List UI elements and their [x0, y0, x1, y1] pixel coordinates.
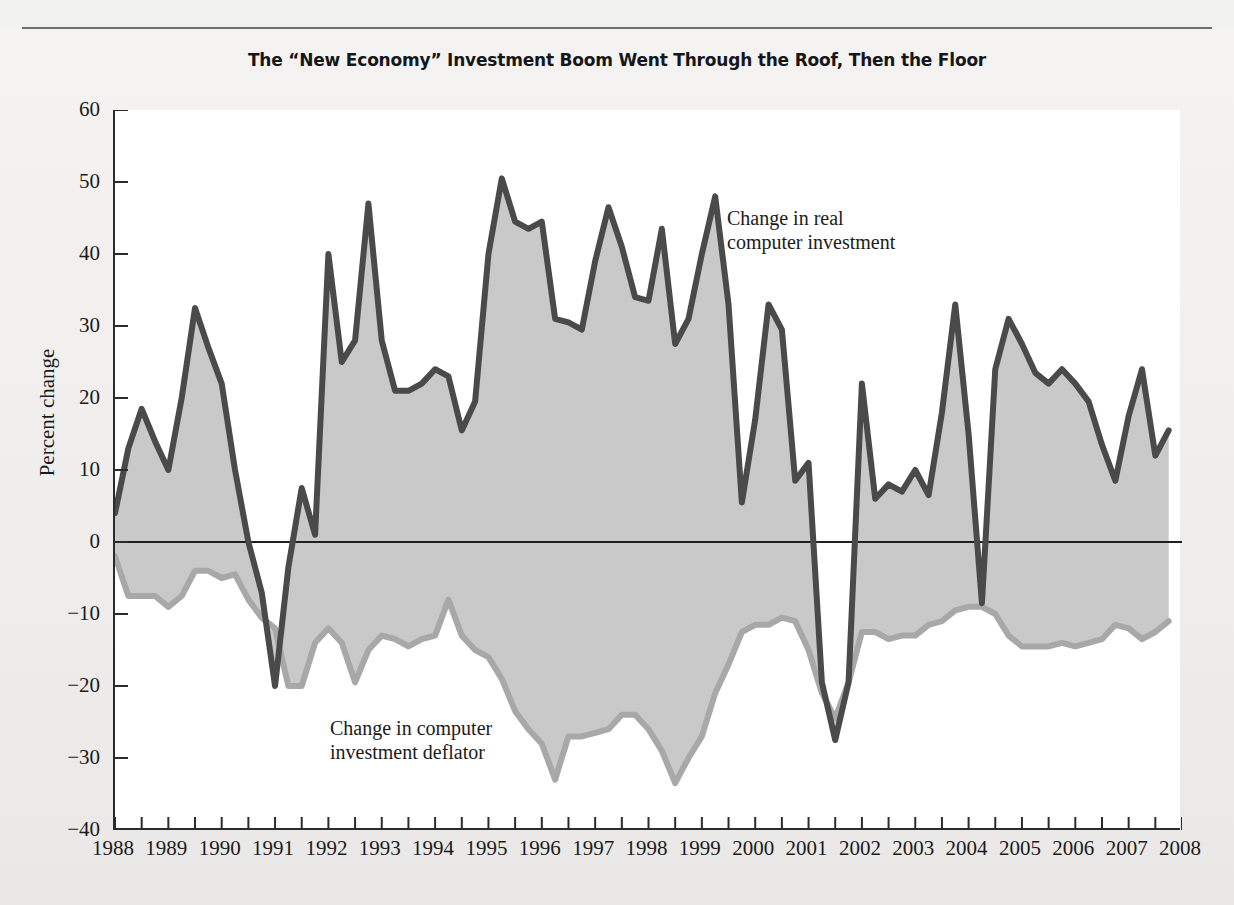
y-tick-label: −30	[67, 747, 100, 768]
y-tick-label: 10	[79, 459, 100, 480]
y-axis-title: Percent change	[35, 303, 60, 523]
y-tick-label: 40	[79, 243, 100, 264]
y-tick-label: 50	[79, 171, 100, 192]
annotation-real-computer-investment: Change in real computer investment	[727, 206, 895, 255]
x-tick-label: 2008	[1140, 838, 1220, 859]
annotation-computer-investment-deflator: Change in computer investment deflator	[330, 716, 492, 765]
chart-title: The “New Economy” Investment Boom Went T…	[0, 50, 1234, 70]
y-tick-label: 20	[79, 387, 100, 408]
figure-container: The “New Economy” Investment Boom Went T…	[0, 0, 1234, 905]
chart-svg	[115, 110, 1182, 830]
x-axis-ticks	[115, 817, 1182, 830]
x-axis-tick-labels: 1988198919901991199219931994199519961997…	[0, 838, 1234, 874]
y-tick-label: −10	[67, 603, 100, 624]
y-tick-label: 0	[90, 531, 101, 552]
plot-area	[113, 110, 1180, 830]
y-tick-label: 60	[79, 99, 100, 120]
band-fill-group	[115, 178, 1169, 783]
y-tick-label: 30	[79, 315, 100, 336]
y-axis-ticks	[115, 110, 128, 830]
between-series-band	[115, 178, 1169, 783]
y-tick-label: −20	[67, 675, 100, 696]
